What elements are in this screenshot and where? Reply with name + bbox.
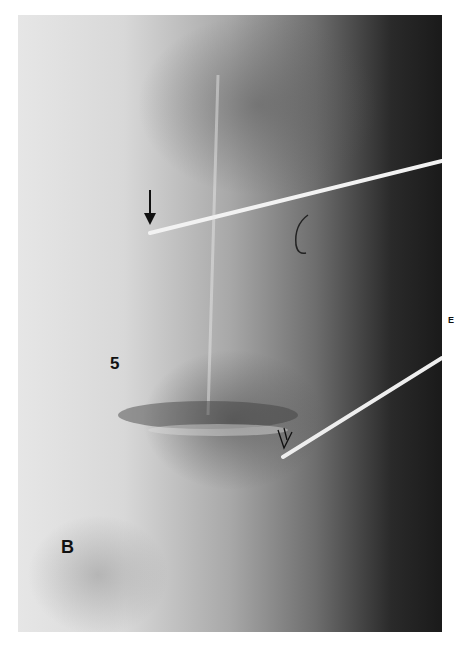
c-mark	[296, 215, 308, 253]
xray-overlay	[18, 15, 442, 632]
straight-arrow-icon	[144, 190, 156, 225]
spinal-line	[208, 75, 218, 415]
region-label: B	[61, 537, 74, 558]
panel-label: E	[448, 315, 454, 325]
lower-needle	[283, 358, 442, 457]
vertebra-label: 5	[110, 354, 119, 374]
disc-contrast	[148, 424, 288, 436]
xray-image: 5 B	[18, 15, 442, 632]
upper-needle	[150, 161, 442, 233]
